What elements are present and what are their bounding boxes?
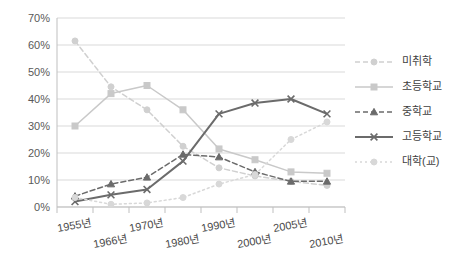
data-point-marker [371, 159, 377, 165]
y-axis-tick-label: 30% [28, 120, 50, 132]
data-point-marker [371, 59, 377, 65]
data-point-marker [144, 200, 150, 206]
data-point-marker [180, 143, 186, 149]
y-axis-tick-label: 20% [28, 147, 50, 159]
data-point-marker [252, 157, 258, 163]
data-point-marker [216, 181, 222, 187]
legend-label: 고등학교 [402, 130, 442, 142]
y-axis-tick-label: 0% [34, 201, 50, 213]
data-point-marker [108, 91, 114, 97]
data-point-marker [180, 107, 186, 113]
y-axis-tick-label: 70% [28, 12, 50, 24]
y-axis-tick-label: 50% [28, 66, 50, 78]
y-axis-tick-label: 10% [28, 174, 50, 186]
data-point-marker [371, 84, 377, 90]
y-axis-tick-label: 40% [28, 93, 50, 105]
data-point-marker [144, 83, 150, 89]
data-point-marker [72, 38, 78, 44]
data-point-marker [216, 165, 222, 171]
data-point-marker [180, 195, 186, 201]
legend-label: 초등학교 [402, 80, 442, 92]
y-axis-tick-label: 60% [28, 39, 50, 51]
data-point-marker [72, 123, 78, 129]
data-point-marker [252, 172, 258, 178]
data-point-marker [144, 107, 150, 113]
data-point-marker [108, 84, 114, 90]
data-point-marker [324, 170, 330, 176]
legend-label: 대학(교) [402, 155, 439, 167]
legend-label: 중학교 [402, 105, 432, 117]
chart-container: 0%10%20%30%40%50%60%70% 1955년1966년1970년1… [0, 0, 449, 262]
data-point-marker [324, 119, 330, 125]
data-point-marker [216, 146, 222, 152]
data-point-marker [108, 201, 114, 207]
data-point-marker [288, 169, 294, 175]
data-point-marker [288, 137, 294, 143]
legend-label: 미취학 [402, 55, 432, 67]
data-point-marker [72, 195, 78, 201]
line-chart: 0%10%20%30%40%50%60%70% 1955년1966년1970년1… [0, 0, 449, 262]
